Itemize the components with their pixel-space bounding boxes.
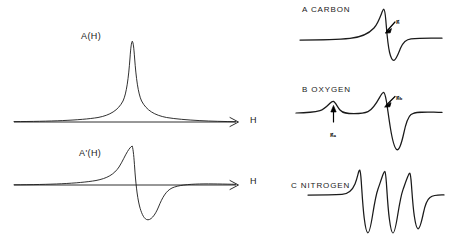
oxygen-spectrum-plot [290,78,452,158]
carbon-spectrum-plot [290,0,452,78]
nitrogen-derivative-curve [308,170,444,233]
absorption-plot [0,0,270,130]
nitrogen-spectrum-plot [290,155,452,250]
g-value-label-oxygen-parallel: gb [396,93,402,101]
lorentzian-derivative-curve [14,146,236,220]
g-symbol: g [396,17,400,25]
g-subscript: b [400,96,403,101]
g-subscript: a [334,133,337,138]
lorentzian-absorption-curve [14,41,236,122]
g-value-label-carbon: g [396,17,400,25]
absorption-axis-label: H [250,115,257,125]
g-value-label-oxygen-perpendicular: ga [330,130,336,138]
carbon-derivative-curve [300,9,442,60]
arrow-head-icon [331,105,336,112]
derivative-plot [0,130,270,251]
derivative-axis-label: H [250,176,257,186]
esr-lineshape-figure: A(H) H A'(H) H A CARBON [0,0,452,251]
oxygen-derivative-curve [296,92,442,149]
